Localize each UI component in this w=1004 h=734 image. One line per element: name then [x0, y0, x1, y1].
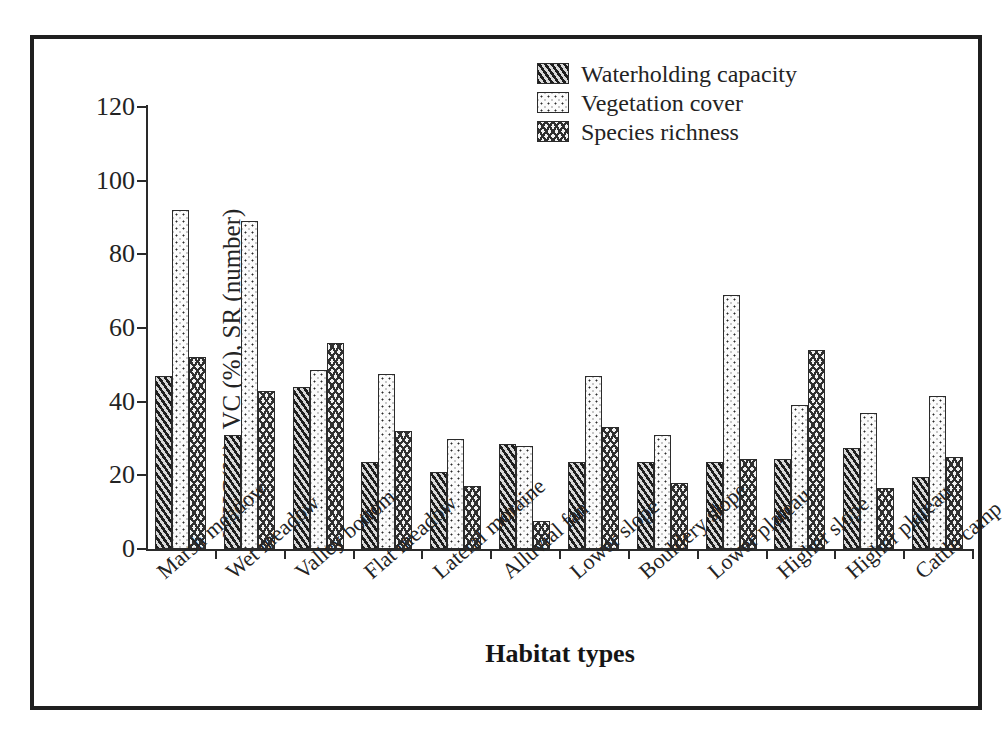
legend-label: Vegetation cover [581, 91, 743, 115]
bar[interactable] [378, 374, 395, 549]
bar[interactable] [860, 413, 877, 549]
y-tick-mark [137, 327, 146, 329]
bar-group [628, 107, 697, 549]
x-tick-mark [353, 549, 355, 559]
legend-item[interactable]: Species richness [537, 117, 797, 146]
bar[interactable] [172, 210, 189, 549]
y-tick-mark [137, 253, 146, 255]
bar-group [834, 107, 903, 549]
plot-area: 020406080100120 [146, 107, 972, 549]
x-tick-mark [284, 549, 286, 559]
x-tick-mark [628, 549, 630, 559]
legend-swatch-icon [537, 121, 569, 142]
chart-legend: Waterholding capacityVegetation coverSpe… [537, 59, 797, 146]
x-tick-mark [215, 549, 217, 559]
y-tick-mark [137, 180, 146, 182]
figure-frame: WHC(%), VC (%), SR (number) Habitat type… [30, 35, 982, 710]
x-tick-mark [834, 549, 836, 559]
bar[interactable] [585, 376, 602, 549]
y-tick-mark [137, 106, 146, 108]
bar-group [146, 107, 215, 549]
bar[interactable] [447, 439, 464, 550]
x-tick-mark [766, 549, 768, 559]
x-tick-mark [697, 549, 699, 559]
bar-group [284, 107, 353, 549]
y-tick-mark [137, 401, 146, 403]
bar[interactable] [654, 435, 671, 549]
bar-group [421, 107, 490, 549]
bar[interactable] [791, 405, 808, 549]
legend-item[interactable]: Waterholding capacity [537, 59, 797, 88]
y-tick-mark [137, 548, 146, 550]
x-tick-mark [972, 549, 974, 559]
bar-group [353, 107, 422, 549]
bar[interactable] [310, 370, 327, 549]
x-axis-title: Habitat types [146, 639, 974, 669]
bar-group [559, 107, 628, 549]
bar[interactable] [929, 396, 946, 549]
legend-item[interactable]: Vegetation cover [537, 88, 797, 117]
x-tick-mark [559, 549, 561, 559]
bar[interactable] [155, 376, 172, 549]
bar[interactable] [327, 343, 344, 549]
bar-group [766, 107, 835, 549]
legend-label: Waterholding capacity [581, 62, 797, 86]
y-tick-mark [137, 474, 146, 476]
legend-swatch-icon [537, 92, 569, 113]
legend-label: Species richness [581, 120, 739, 144]
x-tick-mark [903, 549, 905, 559]
legend-swatch-icon [537, 63, 569, 84]
x-tick-mark [490, 549, 492, 559]
x-tick-mark [421, 549, 423, 559]
